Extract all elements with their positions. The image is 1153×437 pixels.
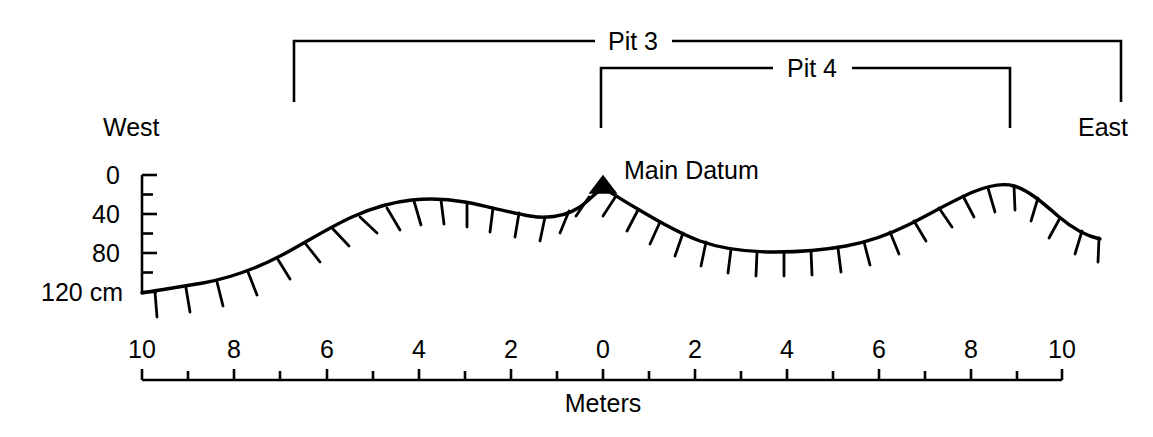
west-label: West bbox=[103, 115, 160, 140]
scale-bar bbox=[142, 369, 1062, 380]
bracket-pit-3 bbox=[294, 41, 1121, 102]
meters-axis-label: Meters bbox=[565, 391, 641, 416]
scale-tick-label-2e: 2 bbox=[688, 337, 702, 362]
depth-label-40: 40 bbox=[92, 202, 120, 227]
scale-tick-label-4e: 4 bbox=[780, 337, 794, 362]
ground-surface-line bbox=[142, 185, 1100, 293]
main-datum-marker bbox=[590, 176, 616, 193]
pit-4-label: Pit 4 bbox=[787, 56, 837, 81]
main-datum-label: Main Datum bbox=[624, 158, 759, 183]
scale-tick-label-2w: 2 bbox=[504, 337, 518, 362]
hachure-ticks bbox=[155, 186, 1099, 317]
site-profile-figure: West East Pit 3 Pit 4 Main Datum 0 40 80… bbox=[0, 0, 1153, 437]
depth-axis bbox=[142, 175, 157, 293]
scale-tick-label-0: 0 bbox=[596, 337, 610, 362]
scale-tick-label-10e: 10 bbox=[1048, 337, 1076, 362]
scale-tick-label-8w: 8 bbox=[227, 337, 241, 362]
pit-3-label: Pit 3 bbox=[608, 29, 658, 54]
depth-label-0: 0 bbox=[106, 163, 120, 188]
scale-tick-label-4w: 4 bbox=[412, 337, 426, 362]
depth-label-80: 80 bbox=[92, 241, 120, 266]
depth-label-120: 120 cm bbox=[41, 280, 123, 305]
profile-drawing bbox=[0, 0, 1153, 437]
scale-tick-label-10w: 10 bbox=[128, 337, 156, 362]
scale-tick-label-6e: 6 bbox=[872, 337, 886, 362]
east-label: East bbox=[1078, 115, 1128, 140]
scale-tick-label-8e: 8 bbox=[964, 337, 978, 362]
scale-tick-label-6w: 6 bbox=[320, 337, 334, 362]
